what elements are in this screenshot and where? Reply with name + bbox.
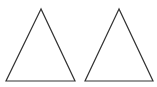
diagram-canvas — [0, 0, 157, 87]
left-triangle — [6, 9, 75, 81]
triangles-diagram — [0, 0, 157, 87]
right-triangle — [85, 9, 153, 81]
